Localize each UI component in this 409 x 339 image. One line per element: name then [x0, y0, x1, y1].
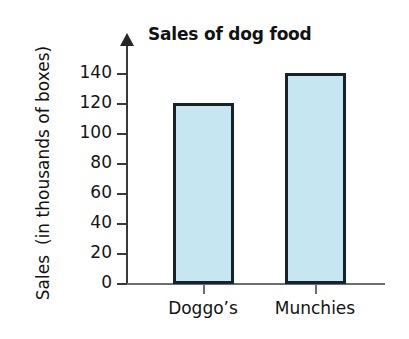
x-tick-mark	[315, 285, 317, 294]
y-tick-mark	[117, 163, 127, 165]
y-axis-arrow-icon	[120, 33, 134, 46]
y-tick-label: 20	[64, 244, 112, 261]
y-tick-label-wrap: 120	[62, 94, 112, 112]
y-tick-label: 60	[64, 184, 112, 201]
y-tick-mark	[117, 253, 127, 255]
y-tick-label: 140	[64, 64, 112, 81]
y-tick-label: 100	[64, 124, 112, 141]
x-tick-mark	[203, 285, 205, 294]
bar-chart: Sales of dog food Sales (in thousands of…	[0, 0, 409, 339]
y-tick-label-wrap: 140	[62, 64, 112, 82]
y-tick-label-wrap: 0	[62, 274, 112, 292]
bar-munchies	[285, 73, 346, 284]
y-tick-label-wrap: 20	[62, 244, 112, 262]
y-tick-mark	[117, 283, 127, 285]
y-tick-label-wrap: 40	[62, 214, 112, 232]
y-axis-label: Sales (in thousands of boxes)	[21, 33, 67, 313]
y-tick-label: 80	[64, 154, 112, 171]
y-tick-mark	[117, 193, 127, 195]
y-tick-label-wrap: 100	[62, 124, 112, 142]
bar-doggos	[173, 103, 234, 284]
y-tick-mark	[117, 223, 127, 225]
y-tick-label: 0	[64, 274, 112, 291]
y-tick-mark	[117, 73, 127, 75]
y-tick-label-wrap: 80	[62, 154, 112, 172]
y-axis-label-line-1: Sales	[35, 255, 53, 300]
y-tick-label: 40	[64, 214, 112, 231]
y-tick-label: 120	[64, 94, 112, 111]
chart-title: Sales of dog food	[148, 24, 398, 44]
x-category-label-doggos: Doggo’s	[143, 298, 263, 318]
y-tick-mark	[117, 103, 127, 105]
x-axis-line	[126, 283, 385, 285]
x-category-label-munchies: Munchies	[255, 298, 375, 318]
y-tick-mark	[117, 133, 127, 135]
y-axis-label-line-2: (in thousands of boxes)	[35, 46, 53, 245]
y-tick-label-wrap: 60	[62, 184, 112, 202]
